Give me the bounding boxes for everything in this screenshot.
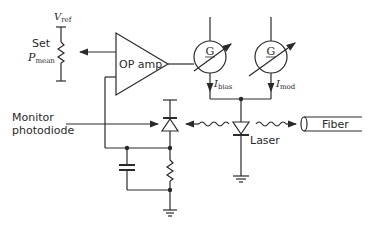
monitor-label-line1: Monitor	[12, 112, 54, 123]
pmean-label: Pmean	[28, 52, 55, 65]
load-resistor	[167, 148, 173, 210]
vref-label: Vref	[54, 12, 71, 24]
filter-capacitor	[119, 148, 170, 190]
laser-diode	[233, 122, 249, 182]
ground-symbol	[163, 210, 177, 216]
circuit-diagram: G G	[0, 0, 378, 229]
set-pmean-potentiometer	[56, 27, 66, 81]
fiber-label: Fiber	[322, 119, 349, 130]
laser-label: Laser	[250, 135, 280, 146]
opamp-label: OP amp	[119, 59, 162, 70]
svg-text:G: G	[267, 45, 276, 58]
monitor-label-line2: photodiode	[12, 125, 74, 136]
svg-text:G: G	[206, 45, 215, 58]
monitor-photodiode	[162, 100, 178, 148]
set-label: Set	[32, 38, 50, 49]
ibias-label: Ibias	[214, 79, 232, 91]
imod-label: Imod	[276, 79, 295, 91]
